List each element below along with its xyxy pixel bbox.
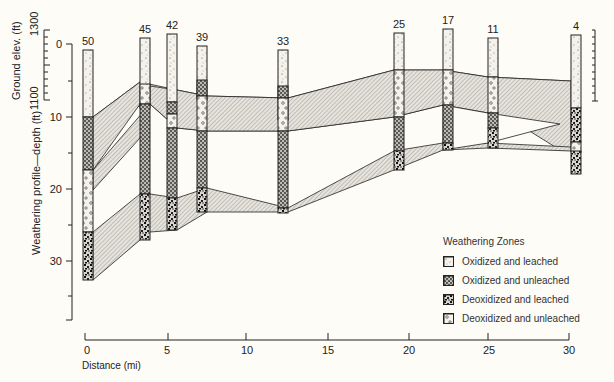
legend-item-oxidized-leached: Oxidized and leached (443, 252, 580, 271)
column-label: 17 (442, 14, 454, 26)
svg-text:25: 25 (483, 344, 495, 356)
column-label: 4 (573, 20, 579, 32)
oxidized-leached-swatch-icon (443, 256, 454, 267)
column-label: 45 (139, 23, 151, 35)
column-label: 42 (166, 19, 178, 31)
depth-axis (66, 44, 72, 320)
svg-text:1100: 1100 (28, 86, 40, 110)
depth-tick-labels: 0 10 20 30 (50, 38, 62, 267)
column-label: 11 (487, 23, 498, 35)
depth-axis-label: Weathering profile—depth (ft) (30, 111, 42, 255)
elevation-scale-right (592, 30, 598, 101)
elevation-scale (44, 30, 50, 100)
legend: Weathering Zones Oxidized and leached Ox… (443, 236, 580, 328)
legend-title: Weathering Zones (443, 236, 580, 247)
svg-text:30: 30 (50, 255, 62, 267)
column-45 (140, 38, 150, 240)
svg-text:0: 0 (84, 344, 90, 356)
deoxidized-leached-swatch-icon (443, 294, 454, 305)
elevation-axis-label: Ground elev. (ft) (10, 21, 22, 100)
svg-text:30: 30 (563, 344, 575, 356)
oxidized-unleached-swatch-icon (443, 275, 454, 286)
svg-text:1300: 1300 (28, 12, 40, 36)
svg-text:15: 15 (322, 344, 334, 356)
column-label: 33 (277, 35, 289, 47)
column-39 (197, 46, 207, 212)
legend-item-deoxidized-unleached: Deoxidized and unleached (443, 309, 580, 328)
elevation-tick-labels: 1300 1100 (28, 12, 40, 110)
column-4 (571, 35, 581, 174)
column-50 (83, 50, 93, 280)
deoxidized-unleached-swatch-icon (443, 313, 454, 324)
distance-axis-label: Distance (mi) (82, 360, 141, 371)
column-17 (443, 29, 453, 150)
column-label: 50 (82, 35, 94, 47)
column-label: 25 (393, 18, 405, 30)
svg-text:0: 0 (56, 38, 62, 50)
svg-text:20: 20 (50, 183, 62, 195)
legend-item-oxidized-unleached: Oxidized and unleached (443, 271, 580, 290)
column-labels: 50 45 42 39 33 25 17 11 4 (82, 14, 579, 47)
column-11 (488, 38, 498, 148)
distance-axis (85, 333, 569, 340)
column-25 (394, 33, 404, 170)
svg-text:20: 20 (403, 344, 415, 356)
distance-tick-labels: 0 5 10 15 20 25 30 (84, 344, 575, 356)
column-42 (167, 34, 177, 230)
svg-text:10: 10 (50, 111, 62, 123)
column-33 (278, 50, 288, 213)
svg-text:5: 5 (164, 344, 170, 356)
svg-text:10: 10 (241, 344, 253, 356)
legend-item-deoxidized-leached: Deoxidized and leached (443, 290, 580, 309)
column-label: 39 (196, 31, 208, 43)
